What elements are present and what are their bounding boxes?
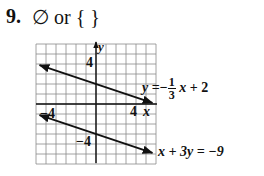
tick-label-x-4: 4 xyxy=(130,104,137,120)
tick-label-x-neg4: −4 xyxy=(40,106,55,122)
equation-line2: x + 3y = −9 xyxy=(158,144,224,160)
equation-line1: y =−13 x + 2 xyxy=(142,76,208,101)
x-axis-label: x xyxy=(143,104,150,120)
tick-label-y-4: 4 xyxy=(86,55,93,71)
graph xyxy=(0,0,264,176)
axes xyxy=(36,42,157,163)
y-axis-label: y xyxy=(98,39,104,55)
tick-label-y-neg4: −4 xyxy=(76,134,91,150)
